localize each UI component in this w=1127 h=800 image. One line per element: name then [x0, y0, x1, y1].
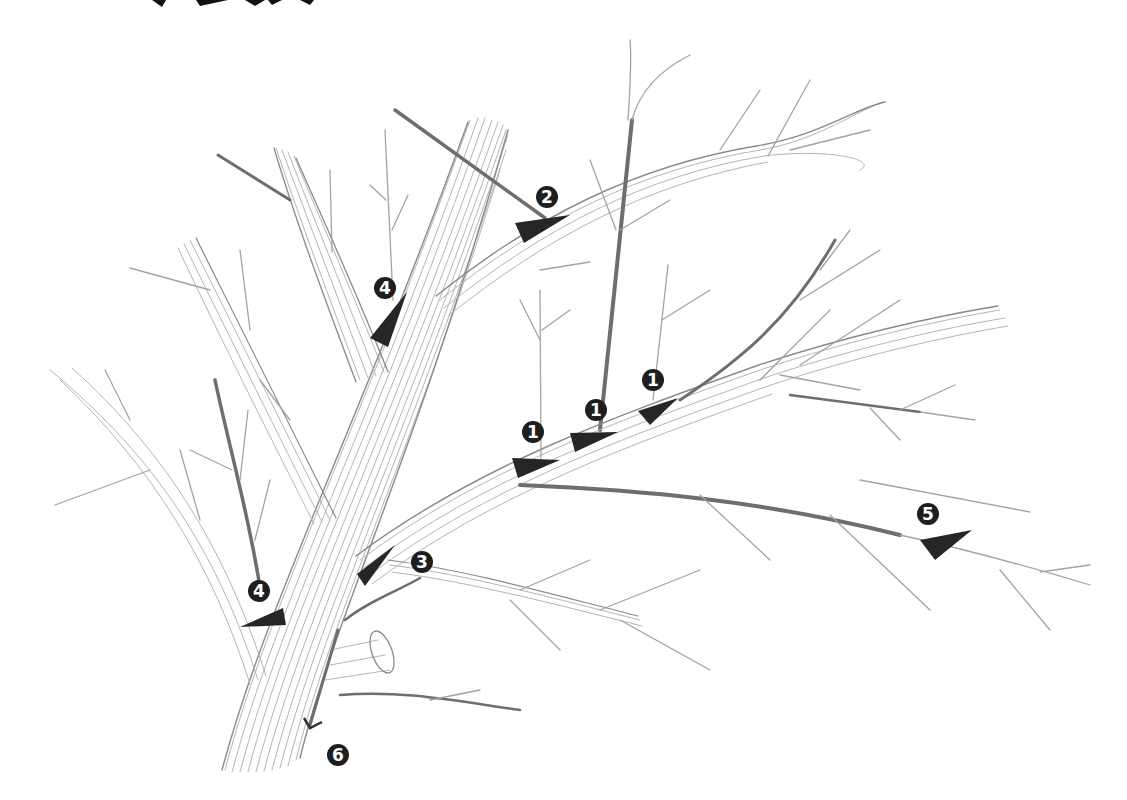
central-right-branch [356, 230, 1008, 584]
marker-label: 4 [379, 278, 391, 298]
marker-label: 1 [527, 422, 539, 442]
marker-label: 5 [922, 504, 934, 524]
cut-wedge-icon [512, 458, 560, 478]
far-left-branch [130, 238, 336, 524]
cut-marker-4b: 4 [240, 580, 286, 627]
cut-marker-4a: 4 [370, 277, 407, 347]
lower-branch [345, 560, 710, 670]
upper-left-twigs [370, 130, 408, 300]
tree-illustration [50, 40, 1090, 772]
cut-wedge-icon [570, 432, 618, 452]
lower-left-branch [50, 368, 270, 684]
cut-wedge-icon [920, 530, 972, 560]
marker-label: 2 [541, 187, 553, 207]
cut-marker-5: 5 [917, 503, 972, 560]
title-glyph-fragment [152, 0, 314, 7]
marker-label: 4 [253, 581, 265, 601]
marker-label: 1 [647, 370, 659, 390]
cut-wedge-icon [370, 292, 407, 347]
marker-label: 3 [416, 552, 428, 572]
pruning-diagram: 1 1 1 2 3 4 4 [0, 0, 1127, 800]
cut-stub [310, 628, 520, 725]
cut-markers: 1 1 1 2 3 4 4 [240, 186, 972, 766]
marker-label: 1 [590, 400, 602, 420]
cut-wedge-icon [240, 608, 286, 627]
marker-label: 6 [332, 745, 344, 765]
